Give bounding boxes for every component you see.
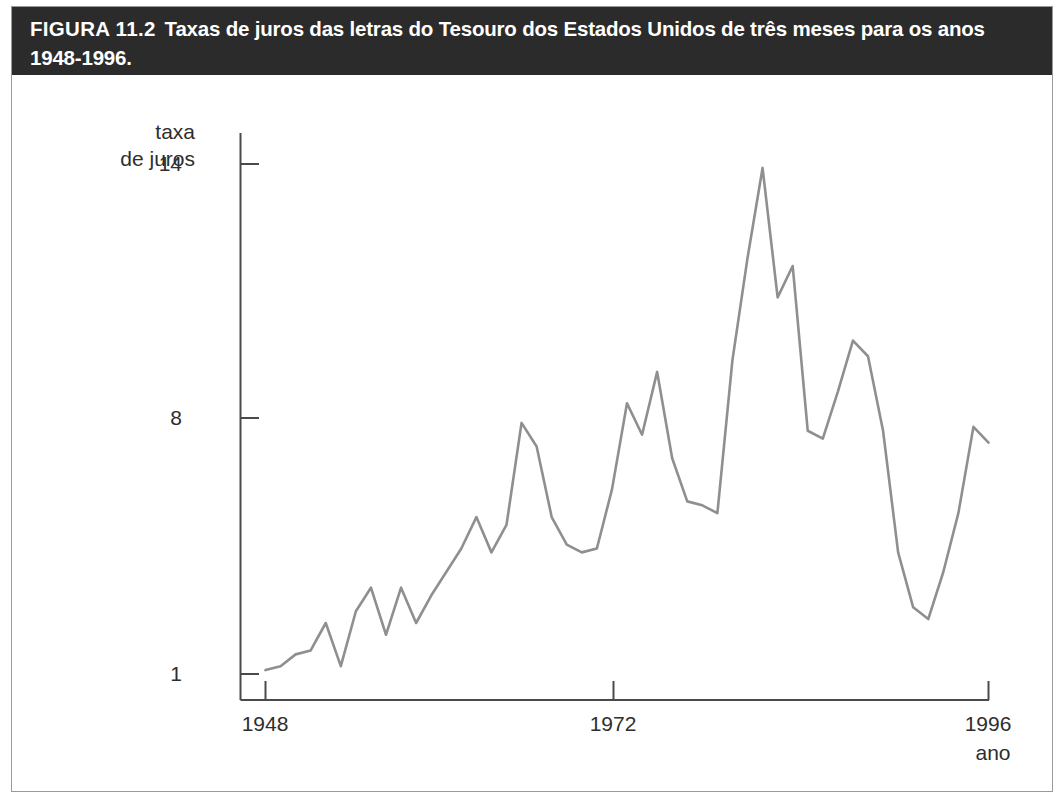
figure-caption-bar: FIGURA 11.2Taxas de juros das letras do … xyxy=(12,7,1052,75)
figure-caption: FIGURA 11.2Taxas de juros das letras do … xyxy=(30,14,1038,72)
chart-axes-group xyxy=(240,133,989,700)
figure-container: FIGURA 11.2Taxas de juros das letras do … xyxy=(0,0,1064,803)
chart-plot-area: taxa de juros 14 8 1 1948 1972 1996 ano xyxy=(0,76,1064,792)
figure-caption-text: Taxas de juros das letras do Tesouro dos… xyxy=(30,17,985,69)
chart-svg xyxy=(0,76,1064,792)
figure-number: FIGURA 11.2 xyxy=(30,17,156,40)
interest-rate-line xyxy=(266,168,989,670)
